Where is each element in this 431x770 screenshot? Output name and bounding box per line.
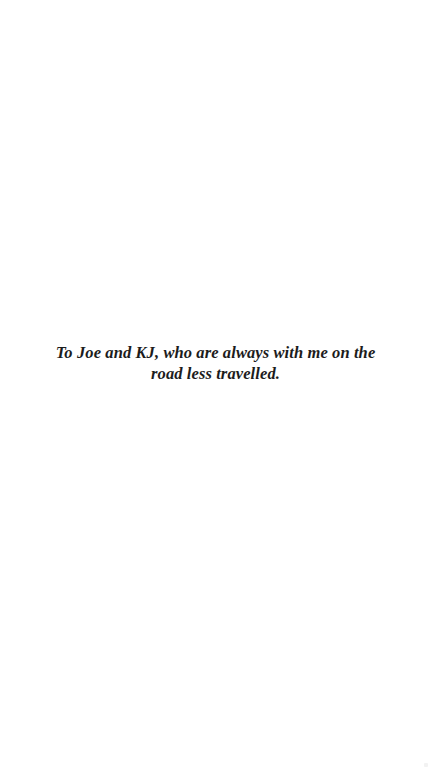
- book-page: To Joe and KJ, who are always with me on…: [0, 0, 431, 770]
- page-corner-mark: [424, 763, 428, 767]
- dedication-text: To Joe and KJ, who are always with me on…: [0, 342, 431, 384]
- dedication-line-2: road less travelled.: [0, 363, 431, 384]
- dedication-line-1: To Joe and KJ, who are always with me on…: [0, 342, 431, 363]
